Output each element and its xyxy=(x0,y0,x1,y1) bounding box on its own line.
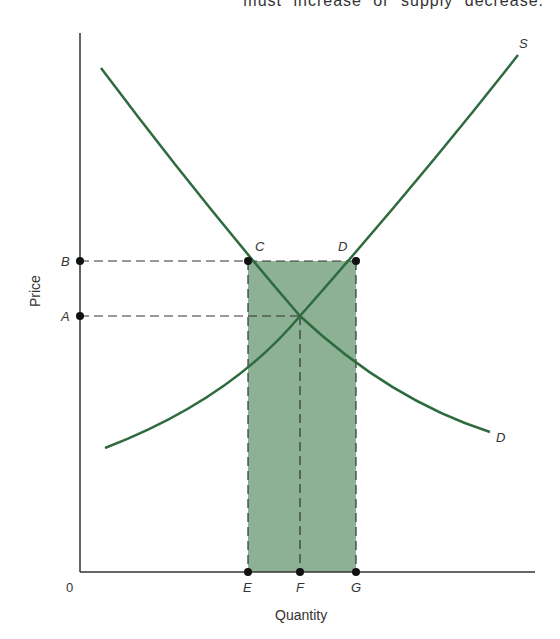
supply-demand-chart: S D B A C D E F G 0 Quantity Price xyxy=(0,0,560,639)
origin-label: 0 xyxy=(66,580,73,595)
dot-g xyxy=(352,568,360,576)
dot-c xyxy=(244,257,252,265)
dot-f xyxy=(296,568,304,576)
qty-e-label: E xyxy=(243,580,252,595)
price-b-label: B xyxy=(61,254,70,269)
demand-label: D xyxy=(496,430,505,445)
y-axis-label: Price xyxy=(27,275,43,307)
dot-e xyxy=(244,568,252,576)
qty-f-label: F xyxy=(296,580,305,595)
price-a-label: A xyxy=(60,309,70,324)
supply-label: S xyxy=(519,36,528,51)
x-axis-label: Quantity xyxy=(275,607,327,623)
point-d-label: D xyxy=(338,239,347,254)
dot-b xyxy=(76,257,84,265)
qty-g-label: G xyxy=(351,580,361,595)
shaded-surplus-region xyxy=(248,261,356,572)
point-c-label: C xyxy=(255,239,265,254)
dot-d xyxy=(352,257,360,265)
dot-a xyxy=(76,312,84,320)
